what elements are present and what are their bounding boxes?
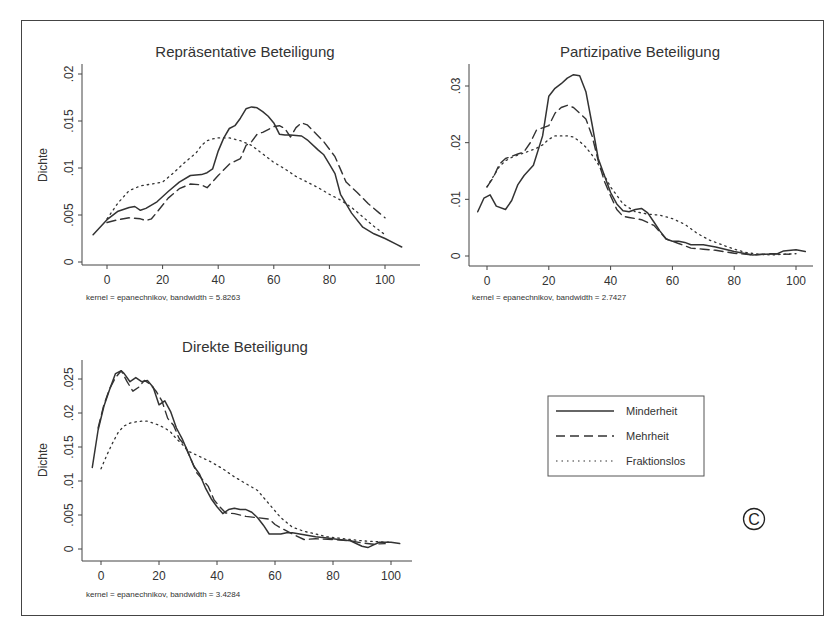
y-tick-label: .01 <box>62 159 76 176</box>
panel-title: Partizipative Beteiligung <box>560 43 720 60</box>
x-tick-label: 80 <box>326 569 340 583</box>
curve-minderheit <box>92 371 399 548</box>
x-tick-label: 60 <box>267 273 281 287</box>
x-tick-label: 0 <box>484 274 491 288</box>
kernel-note: kernel = epanechnikov, bandwidth = 5.826… <box>86 293 241 302</box>
panel-title: Repräsentative Beteiligung <box>155 43 334 60</box>
x-tick-label: 0 <box>98 569 105 583</box>
kernel-note: kernel = epanechnikov, bandwidth = 3.428… <box>86 590 241 599</box>
y-tick-label: .01 <box>449 191 463 208</box>
legend: Minderheit Mehrheit Fraktionslos <box>548 396 704 476</box>
legend-label: Mehrheit <box>626 430 669 442</box>
y-tick-label: .005 <box>62 503 76 527</box>
curve-mehrheit <box>487 105 790 255</box>
density-curves <box>92 371 399 548</box>
y-tick-label: .01 <box>62 472 76 489</box>
x-tick-label: 80 <box>728 274 742 288</box>
y-tick-label: .005 <box>62 203 76 227</box>
panel-direkte-beteiligung: Direkte Beteiligung Dichte 0.005.01.015.… <box>36 338 412 599</box>
y-tick-label: 0 <box>449 252 463 259</box>
density-curves <box>93 107 402 247</box>
y-tick-label: 0 <box>62 545 76 552</box>
kernel-note: kernel = epanechnikov, bandwidth = 2.742… <box>472 293 627 302</box>
x-tick-label: 40 <box>604 274 618 288</box>
y-tick-label: .02 <box>62 65 76 82</box>
y-tick-label: .02 <box>62 404 76 421</box>
axes: 0.005.01.015.02.025020406080100 <box>62 360 412 583</box>
axes: 0.005.01.015.02020406080100 <box>62 64 420 287</box>
x-tick-label: 100 <box>375 273 395 287</box>
x-tick-label: 40 <box>210 569 224 583</box>
curve-mehrheit <box>98 371 385 544</box>
x-tick-label: 100 <box>381 569 401 583</box>
copyright-icon: C <box>744 509 765 530</box>
panel-repraesentative-beteiligung: Repräsentative Beteiligung Dichte 0.005.… <box>36 43 420 302</box>
panel-title: Direkte Beteiligung <box>182 338 308 355</box>
legend-label: Fraktionslos <box>626 455 686 467</box>
y-tick-label: .015 <box>62 109 76 133</box>
x-tick-label: 40 <box>212 273 226 287</box>
x-tick-label: 20 <box>152 569 166 583</box>
y-tick-label: 0 <box>62 258 76 265</box>
x-tick-label: 60 <box>666 274 680 288</box>
y-tick-label: .015 <box>62 435 76 459</box>
x-tick-label: 20 <box>542 274 556 288</box>
x-tick-label: 80 <box>323 273 337 287</box>
figure-canvas: Repräsentative Beteiligung Dichte 0.005.… <box>0 0 839 633</box>
curve-fraktionslos <box>101 421 391 542</box>
svg-text:C: C <box>748 511 760 528</box>
y-axis-label: Dichte <box>36 148 50 182</box>
x-tick-label: 20 <box>156 273 170 287</box>
y-axis-label: Dichte <box>36 443 50 477</box>
y-tick-label: .02 <box>449 134 463 151</box>
legend-label: Minderheit <box>626 405 677 417</box>
y-tick-label: .025 <box>62 367 76 391</box>
curve-minderheit <box>93 107 402 247</box>
density-curves <box>478 75 806 255</box>
x-tick-label: 0 <box>104 273 111 287</box>
x-tick-label: 60 <box>268 569 282 583</box>
y-tick-label: .03 <box>449 77 463 94</box>
curve-minderheit <box>478 75 806 255</box>
x-tick-label: 100 <box>786 274 806 288</box>
curve-fraktionslos <box>487 136 796 255</box>
panel-partizipative-beteiligung: Partizipative Beteiligung 0.01.02.030204… <box>449 43 813 302</box>
